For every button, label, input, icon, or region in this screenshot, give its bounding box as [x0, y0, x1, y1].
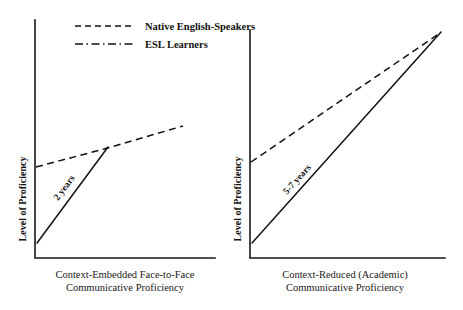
panel-left-y-axis-label: Level of Proficiency [17, 157, 28, 242]
panel-right: Level of Proficiency 5-7 years Context-R… [232, 30, 445, 293]
panel-left: Level of Proficiency 2 years Context-Emb… [17, 20, 215, 293]
panel-left-annotation-2-years: 2 years [52, 173, 77, 202]
panel-left-caption-line-2: Communicative Proficiency [66, 282, 185, 293]
panel-left-series-native-english-speakers [36, 126, 183, 167]
two-panel-line-chart: Native English-Speakers ESL Learners Lev… [0, 0, 463, 310]
panel-right-series-esl-learners [252, 32, 441, 243]
figure-container: Native English-Speakers ESL Learners Lev… [0, 0, 463, 310]
panel-right-series-native-english-speakers [251, 33, 440, 162]
legend-label-esl-learners: ESL Learners [145, 39, 208, 50]
panel-left-series-esl-learners [37, 147, 108, 243]
legend: Native English-Speakers ESL Learners [75, 21, 255, 50]
panel-right-caption-line-1: Context-Reduced (Academic) [282, 269, 408, 281]
panel-left-caption-line-1: Context-Embedded Face-to-Face [55, 269, 194, 280]
panel-right-caption-line-2: Communicative Proficiency [286, 282, 405, 293]
legend-label-native-english-speakers: Native English-Speakers [145, 21, 255, 32]
panel-right-axes [250, 30, 445, 258]
panel-left-axes [35, 20, 215, 258]
panel-right-y-axis-label: Level of Proficiency [232, 157, 243, 242]
